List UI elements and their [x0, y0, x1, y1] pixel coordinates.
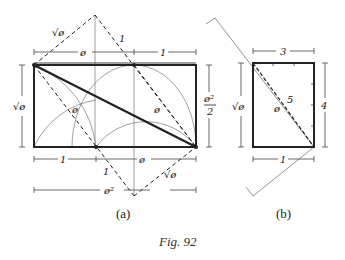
label-diag-inner-right: ø	[153, 104, 161, 115]
label-diag-lower-right: √ø	[164, 169, 177, 180]
label-b-right: 4	[320, 100, 327, 111]
arc-right	[96, 122, 196, 147]
label-diag-lower-left: 1	[103, 166, 109, 177]
label-right-height-num: ø²	[203, 93, 214, 104]
label-b-top: 3	[280, 46, 286, 57]
figure-caption: Fig. 92	[158, 234, 197, 249]
dashed-inner-left	[34, 65, 134, 196]
main-diagonal	[34, 65, 196, 147]
label-b-inner: ø	[273, 103, 281, 114]
label-b-bottom: 1	[280, 154, 286, 165]
rotated-square-edge-top	[215, 18, 314, 147]
panel-b: 3 4 1 √ø 5 ø (b)	[206, 18, 330, 221]
figure-92-diagram: ø 1 √ø ø² 2 1 ø ø² √ø 1 ø ø 1 √ø (a)	[0, 0, 345, 260]
label-bottom-left: 1	[60, 154, 66, 165]
label-diag-upper-left: √ø	[52, 27, 65, 38]
label-top-left: ø	[79, 47, 87, 58]
arc-left-lower	[34, 100, 96, 147]
label-bottom-right: ø	[138, 154, 146, 165]
label-left-height: √ø	[13, 101, 26, 112]
panel-a: ø 1 √ø ø² 2 1 ø ø² √ø 1 ø ø 1 √ø (a)	[13, 15, 217, 221]
label-b-hypotenuse: 5	[287, 94, 293, 105]
panel-b-label: (b)	[276, 206, 291, 221]
label-right-height-den: 2	[206, 106, 213, 117]
panel-a-label: (a)	[116, 206, 130, 221]
label-bottom-total: ø²	[103, 185, 114, 196]
label-top-right: 1	[160, 47, 166, 58]
dashed-inner-right	[134, 65, 196, 147]
diagonal-b	[253, 63, 314, 147]
label-diag-upper-right: 1	[119, 33, 125, 44]
label-b-left: √ø	[232, 101, 245, 112]
label-diag-inner-left: ø	[71, 104, 79, 115]
